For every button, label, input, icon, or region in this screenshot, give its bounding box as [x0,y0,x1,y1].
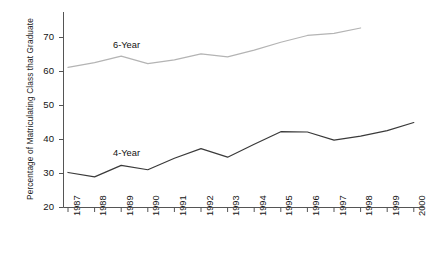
data-series [68,28,414,177]
axes [59,12,424,212]
line-chart: Percentage of Matriculating Class that G… [0,0,433,257]
plot-area [0,0,433,257]
series-line-6-year [68,28,361,67]
series-line-4-year [68,123,414,177]
